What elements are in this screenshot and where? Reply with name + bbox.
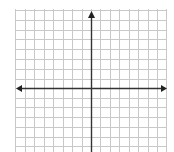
- arrow-left-icon: [16, 85, 22, 92]
- axes: [16, 11, 167, 152]
- coordinate-plane: [0, 0, 174, 152]
- arrow-up-icon: [88, 11, 95, 18]
